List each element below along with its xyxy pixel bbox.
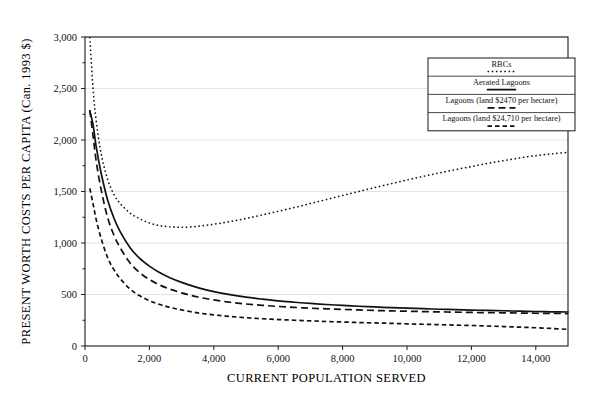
legend-label-1: Aerated Lagoons xyxy=(473,78,530,87)
ytick-label: 1,500 xyxy=(53,186,77,197)
axis-titles: CURRENT POPULATION SERVEDPRESENT WORTH C… xyxy=(19,38,426,385)
xtick-label: 6,000 xyxy=(266,353,290,364)
series-line-1 xyxy=(90,111,568,312)
xtick-label: 2,000 xyxy=(138,353,162,364)
y-tick-labels: 05001,0001,5002,0002,5003,000 xyxy=(53,32,77,352)
y-axis-title: PRESENT WORTH COSTS PER CAPITA (Can. 199… xyxy=(19,38,33,344)
xtick-label: 10,000 xyxy=(393,353,422,364)
legend-label-3: Lagoons (land $24,710 per hectare) xyxy=(442,114,560,123)
ytick-label: 3,000 xyxy=(53,32,77,43)
legend-label-0: RBCs xyxy=(492,60,512,69)
xtick-label: 14,000 xyxy=(521,353,550,364)
ytick-label: 500 xyxy=(61,289,77,300)
ytick-label: 1,000 xyxy=(53,238,77,249)
xtick-label: 4,000 xyxy=(202,353,226,364)
ytick-label: 2,000 xyxy=(53,135,77,146)
ytick-label: 0 xyxy=(72,341,77,352)
xtick-label: 8,000 xyxy=(331,353,355,364)
chart-legend: RBCsAerated LagoonsLagoons (land $2470 p… xyxy=(428,58,575,131)
xtick-label: 0 xyxy=(82,353,87,364)
legend-label-2: Lagoons (land $2470 per hectare) xyxy=(446,96,558,105)
cost-per-capita-line-chart: 02,0004,0006,0008,00010,00012,00014,000 … xyxy=(0,0,595,407)
x-axis-title: CURRENT POPULATION SERVED xyxy=(227,371,426,385)
x-tick-labels: 02,0004,0006,0008,00010,00012,00014,000 xyxy=(82,353,550,364)
chart-figure: 02,0004,0006,0008,00010,00012,00014,000 … xyxy=(0,0,595,407)
series-line-2 xyxy=(90,110,568,313)
ytick-label: 2,500 xyxy=(53,83,77,94)
xtick-label: 12,000 xyxy=(457,353,486,364)
